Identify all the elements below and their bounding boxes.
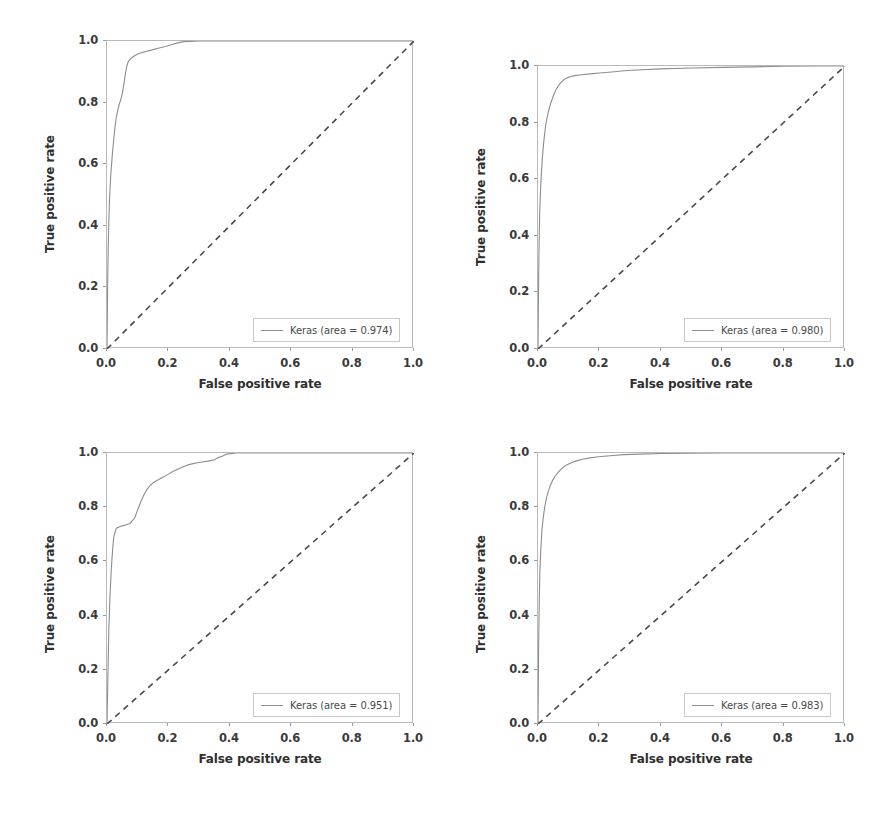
x-tick-label: 1.0 bbox=[403, 356, 423, 370]
x-axis-label: False positive rate bbox=[198, 377, 321, 391]
subplot-top-left: True positive rate False positive rate K… bbox=[0, 0, 460, 410]
y-tick-label: 0.2 bbox=[68, 279, 98, 293]
y-axis-label: True positive rate bbox=[43, 135, 57, 253]
y-axis-label: True positive rate bbox=[474, 535, 488, 653]
x-axis-label: False positive rate bbox=[629, 752, 752, 766]
x-tick-label: 0.8 bbox=[773, 731, 793, 745]
x-tick-label: 0.2 bbox=[589, 731, 609, 745]
legend-bottom-left: Keras (area = 0.951) bbox=[253, 693, 400, 717]
x-tickmark bbox=[106, 723, 107, 726]
y-axis-label: True positive rate bbox=[474, 148, 488, 266]
y-axis-label: True positive rate bbox=[43, 535, 57, 653]
x-tickmark bbox=[783, 723, 784, 726]
subplot-top-right: True positive rate False positive rate K… bbox=[431, 0, 891, 410]
y-tick-label: 1.0 bbox=[68, 445, 98, 459]
plot-area-top-right bbox=[537, 65, 844, 348]
x-tick-label: 0.8 bbox=[773, 356, 793, 370]
x-tick-label: 0.2 bbox=[589, 356, 609, 370]
y-tickmark bbox=[534, 291, 537, 292]
x-tick-label: 0.6 bbox=[711, 356, 731, 370]
plot-area-bottom-right bbox=[537, 452, 844, 723]
x-tickmark bbox=[290, 348, 291, 351]
y-tickmark bbox=[534, 615, 537, 616]
y-tickmark bbox=[534, 506, 537, 507]
plot-area-bottom-left bbox=[106, 452, 413, 723]
subplot-bottom-right: True positive rate False positive rate K… bbox=[431, 397, 891, 807]
y-tick-label: 0.6 bbox=[68, 553, 98, 567]
x-tick-label: 0.0 bbox=[96, 356, 116, 370]
x-tickmark bbox=[352, 348, 353, 351]
x-tickmark bbox=[352, 723, 353, 726]
x-tickmark bbox=[229, 348, 230, 351]
x-tickmark bbox=[598, 723, 599, 726]
y-tickmark bbox=[534, 348, 537, 349]
x-tickmark bbox=[537, 348, 538, 351]
x-tick-label: 0.6 bbox=[280, 731, 300, 745]
y-tickmark bbox=[103, 348, 106, 349]
y-tickmark bbox=[103, 723, 106, 724]
y-tickmark bbox=[534, 65, 537, 66]
y-tickmark bbox=[103, 102, 106, 103]
y-tick-label: 0.8 bbox=[68, 95, 98, 109]
x-tick-label: 0.8 bbox=[342, 356, 362, 370]
legend-bottom-right: Keras (area = 0.983) bbox=[684, 693, 831, 717]
y-tick-label: 0.0 bbox=[499, 716, 529, 730]
y-tick-label: 0.8 bbox=[68, 499, 98, 513]
y-tickmark bbox=[534, 669, 537, 670]
y-tick-label: 0.4 bbox=[499, 608, 529, 622]
legend-label: Keras (area = 0.983) bbox=[721, 700, 823, 711]
x-tick-label: 1.0 bbox=[403, 731, 423, 745]
x-tickmark bbox=[598, 348, 599, 351]
x-tick-label: 0.6 bbox=[711, 731, 731, 745]
y-tick-label: 0.8 bbox=[499, 499, 529, 513]
y-tickmark bbox=[103, 560, 106, 561]
y-tick-label: 0.0 bbox=[499, 341, 529, 355]
roc-curve-canvas-bottom-right bbox=[538, 453, 845, 724]
x-tickmark bbox=[167, 723, 168, 726]
y-tick-label: 0.0 bbox=[68, 341, 98, 355]
x-tickmark bbox=[229, 723, 230, 726]
x-tick-label: 0.4 bbox=[219, 731, 239, 745]
y-tickmark bbox=[534, 178, 537, 179]
x-tickmark bbox=[844, 723, 845, 726]
y-tick-label: 0.2 bbox=[499, 662, 529, 676]
subplot-bottom-left: True positive rate False positive rate K… bbox=[0, 397, 460, 807]
legend-line-icon bbox=[692, 330, 714, 331]
y-tick-label: 0.4 bbox=[499, 228, 529, 242]
x-tickmark bbox=[721, 348, 722, 351]
y-tick-label: 1.0 bbox=[68, 33, 98, 47]
y-tickmark bbox=[103, 506, 106, 507]
y-tick-label: 0.0 bbox=[68, 716, 98, 730]
x-tick-label: 0.4 bbox=[219, 356, 239, 370]
y-tickmark bbox=[534, 122, 537, 123]
x-tickmark bbox=[660, 723, 661, 726]
y-tickmark bbox=[534, 560, 537, 561]
plot-area-top-left bbox=[106, 40, 413, 348]
y-tick-label: 0.2 bbox=[499, 284, 529, 298]
y-tick-label: 1.0 bbox=[499, 58, 529, 72]
y-tickmark bbox=[534, 235, 537, 236]
roc-figure: True positive rate False positive rate K… bbox=[0, 0, 891, 814]
y-tickmark bbox=[103, 40, 106, 41]
legend-label: Keras (area = 0.980) bbox=[721, 325, 823, 336]
y-tick-label: 0.6 bbox=[499, 171, 529, 185]
y-tick-label: 0.4 bbox=[68, 218, 98, 232]
x-tick-label: 0.0 bbox=[96, 731, 116, 745]
x-tickmark bbox=[537, 723, 538, 726]
y-tickmark bbox=[103, 615, 106, 616]
x-axis-label: False positive rate bbox=[198, 752, 321, 766]
x-tickmark bbox=[290, 723, 291, 726]
legend-top-right: Keras (area = 0.980) bbox=[684, 318, 831, 342]
y-tickmark bbox=[103, 286, 106, 287]
x-tickmark bbox=[844, 348, 845, 351]
x-axis-label: False positive rate bbox=[629, 377, 752, 391]
x-tickmark bbox=[413, 723, 414, 726]
y-tickmark bbox=[534, 723, 537, 724]
x-tick-label: 1.0 bbox=[834, 731, 854, 745]
x-tickmark bbox=[721, 723, 722, 726]
legend-label: Keras (area = 0.951) bbox=[290, 700, 392, 711]
x-tickmark bbox=[783, 348, 784, 351]
legend-line-icon bbox=[261, 705, 283, 706]
roc-curve-canvas-top-left bbox=[107, 41, 414, 349]
y-tick-label: 0.2 bbox=[68, 662, 98, 676]
